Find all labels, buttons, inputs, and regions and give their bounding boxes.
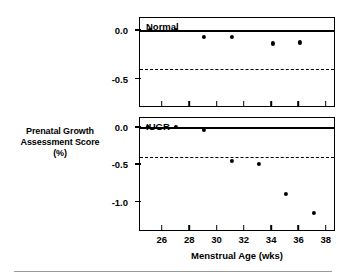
- normal-y-tick-label: -0.5: [112, 73, 128, 84]
- x-tick-label: 38: [321, 234, 332, 245]
- iugr-data-point: [229, 158, 233, 162]
- x-tick-label: 32: [239, 234, 250, 245]
- x-tick: 38: [325, 225, 327, 231]
- iugr-y-tick: 0.0: [135, 126, 141, 128]
- iugr-cutoff-line: [140, 157, 334, 158]
- figure: Prenatal Growth Assessment Score (%) Nor…: [0, 0, 349, 279]
- x-tick: 26: [161, 225, 163, 231]
- x-tick: [216, 101, 218, 107]
- normal-data-point: [229, 34, 233, 38]
- normal-panel: Normal 0.0-0.5: [139, 17, 335, 107]
- x-tick: 30: [216, 225, 218, 231]
- normal-data-point: [202, 34, 206, 38]
- x-tick-label: 26: [157, 234, 168, 245]
- y-axis-title-line-2: Assessment Score: [6, 137, 114, 148]
- normal-y-tick: 0.0: [135, 29, 141, 31]
- iugr-data-point: [284, 192, 288, 196]
- x-tick: 36: [298, 225, 300, 231]
- iugr-plot-area: 0.0-0.5-1.026283032343638: [140, 118, 334, 230]
- x-tick-label: 30: [211, 234, 222, 245]
- iugr-y-tick-label: 0.0: [115, 121, 128, 132]
- x-axis-title: Menstrual Age (wks): [139, 250, 335, 261]
- normal-y-tick: -0.5: [135, 78, 141, 80]
- normal-plot-area: 0.0-0.5: [140, 18, 334, 106]
- iugr-y-tick-label: -1.0: [112, 196, 128, 207]
- x-tick-label: 36: [293, 234, 304, 245]
- x-tick: [161, 101, 163, 107]
- iugr-data-point: [311, 211, 315, 215]
- y-axis-title: Prenatal Growth Assessment Score (%): [6, 126, 114, 159]
- normal-data-point: [298, 40, 302, 44]
- y-axis-title-line-1: Prenatal Growth: [6, 126, 114, 137]
- x-tick-label: 34: [266, 234, 277, 245]
- normal-data-point: [270, 41, 274, 45]
- iugr-y-tick: -1.0: [135, 201, 141, 203]
- x-tick: [298, 101, 300, 107]
- x-tick: [325, 101, 327, 107]
- iugr-data-point: [202, 128, 206, 132]
- normal-y-tick-label: 0.0: [115, 24, 128, 35]
- x-tick: [243, 101, 245, 107]
- x-tick: 28: [188, 225, 190, 231]
- iugr-zero-line: [140, 127, 334, 129]
- iugr-y-tick: -0.5: [135, 163, 141, 165]
- x-tick: [188, 101, 190, 107]
- normal-cutoff-line: [140, 69, 334, 70]
- iugr-panel: IUGR 0.0-0.5-1.026283032343638: [139, 117, 335, 231]
- x-tick-label: 28: [184, 234, 195, 245]
- x-tick: 34: [270, 225, 272, 231]
- iugr-data-point: [257, 162, 261, 166]
- footer-divider: [14, 271, 332, 272]
- x-tick: [270, 101, 272, 107]
- y-axis-title-line-3: (%): [6, 148, 114, 159]
- normal-zero-line: [140, 30, 334, 32]
- iugr-y-tick-label: -0.5: [112, 159, 128, 170]
- x-tick: 32: [243, 225, 245, 231]
